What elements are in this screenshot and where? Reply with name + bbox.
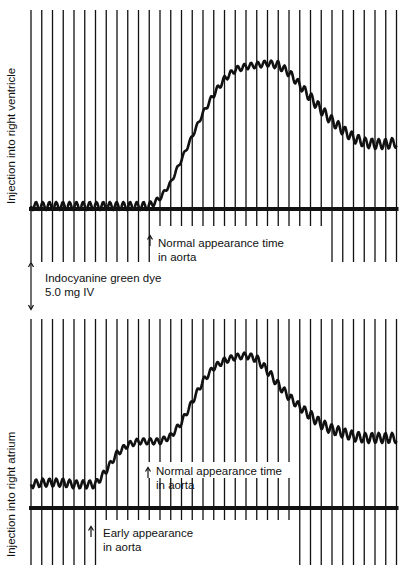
top-normal-appearance-line2: in aorta [158, 250, 284, 264]
bottom-early-appearance-line2: in aorta [103, 540, 193, 554]
dye-dose: 5.0 mg IV [45, 285, 161, 299]
top-normal-arrow-icon [148, 236, 153, 247]
top-normal-appearance-label: Normal appearance time in aorta [158, 236, 284, 264]
top-panel-y-label: Injection into right ventricle [5, 68, 17, 204]
top-panel-time-markers [29, 10, 399, 262]
dye-name: Indocyanine green dye [45, 271, 161, 285]
top-normal-appearance-line1: Normal appearance time [158, 236, 284, 250]
injection-double-arrow-icon [29, 263, 34, 310]
bottom-normal-appearance-line1: Normal appearance time [156, 464, 282, 478]
bottom-normal-arrow-icon [146, 468, 151, 479]
dye-dose-note: Indocyanine green dye 5.0 mg IV [45, 271, 161, 299]
bottom-early-appearance-line1: Early appearance [103, 526, 193, 540]
bottom-panel-y-label: Injection into right atrium [5, 432, 17, 557]
dye-dilution-figure: Injection into right ventricle Normal ap… [0, 0, 409, 569]
bottom-normal-appearance-line2: in aorta [156, 478, 282, 492]
bottom-panel-time-markers [29, 319, 399, 565]
bottom-normal-appearance-label: Normal appearance time in aorta [156, 464, 282, 492]
bottom-early-arrow-icon [89, 527, 94, 538]
bottom-early-appearance-label: Early appearance in aorta [103, 526, 193, 554]
